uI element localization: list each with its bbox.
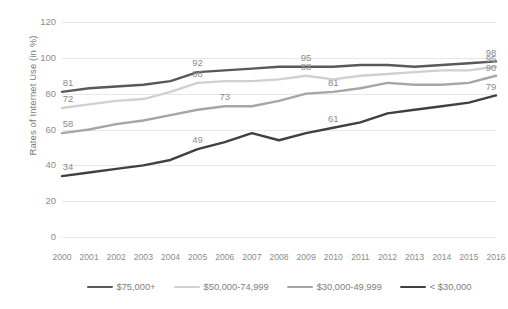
x-axis-tick-label: 2006 <box>215 253 234 262</box>
x-axis-tick-label: 2004 <box>161 253 180 262</box>
x-axis-tick-label: 2010 <box>324 253 343 262</box>
data-point-label: 61 <box>328 114 339 124</box>
x-axis-tick-label: 2003 <box>134 253 153 262</box>
y-axis-tick-label: 20 <box>16 196 56 206</box>
data-point-label: 73 <box>219 92 230 102</box>
legend-swatch-icon <box>87 286 113 289</box>
y-axis-tick-label: 120 <box>16 17 56 27</box>
data-point-label: 34 <box>63 162 74 172</box>
y-axis-tick-label: 80 <box>16 89 56 99</box>
series-line <box>62 76 496 133</box>
x-axis-tick-label: 2002 <box>107 253 126 262</box>
x-axis-tick-label: 2014 <box>432 253 451 262</box>
x-axis-tick-labels: 2000200120022003200420052006200720082009… <box>62 253 496 267</box>
legend-swatch-icon <box>287 286 313 289</box>
y-axis-tick-label: 40 <box>16 160 56 170</box>
legend-item[interactable]: $30,000-49,999 <box>287 282 382 292</box>
plot-area: 81929598728688955873819034496179 <box>62 22 496 237</box>
data-point-label: 49 <box>192 135 203 145</box>
x-axis-tick-label: 2008 <box>269 253 288 262</box>
data-point-label: 86 <box>192 69 203 79</box>
y-axis-tick-label: 0 <box>16 232 56 242</box>
x-axis-tick-label: 2015 <box>459 253 478 262</box>
legend-swatch-icon <box>174 286 200 289</box>
legend-label: $50,000-74,999 <box>204 282 269 292</box>
data-point-label: 81 <box>328 78 339 88</box>
legend-item[interactable]: < $30,000 <box>400 282 472 292</box>
chart-legend: $75,000+$50,000-74,999$30,000-49,999< $3… <box>62 278 496 296</box>
y-axis-tick-label: 100 <box>16 53 56 63</box>
x-axis-tick-label: 2009 <box>297 253 316 262</box>
legend-item[interactable]: $50,000-74,999 <box>174 282 269 292</box>
data-point-label: 79 <box>486 83 497 93</box>
x-axis-tick-label: 2011 <box>351 253 369 262</box>
legend-item[interactable]: $75,000+ <box>87 282 156 292</box>
y-axis-tick-label: 60 <box>16 125 56 135</box>
data-point-label: 58 <box>63 119 74 129</box>
data-point-label: 81 <box>63 78 74 88</box>
legend-swatch-icon <box>400 286 426 289</box>
x-axis-tick-label: 2016 <box>486 253 505 262</box>
y-axis-tick-labels: 020406080100120 <box>12 22 56 237</box>
gridline <box>62 237 496 238</box>
data-point-label: 90 <box>486 63 497 73</box>
x-axis-tick-label: 2000 <box>52 253 71 262</box>
x-axis-tick-label: 2007 <box>242 253 261 262</box>
legend-label: < $30,000 <box>430 282 472 292</box>
data-point-label: 72 <box>63 94 74 104</box>
x-axis-tick-label: 2001 <box>80 253 99 262</box>
x-axis-tick-label: 2005 <box>188 253 207 262</box>
x-axis-tick-label: 2013 <box>405 253 424 262</box>
data-point-label: 88 <box>301 62 312 72</box>
line-chart: Rates of Internet Use (in %) 02040608010… <box>0 0 508 309</box>
series-lines <box>62 22 496 237</box>
data-point-label: 92 <box>192 58 203 68</box>
x-axis-tick-label: 2012 <box>378 253 397 262</box>
legend-label: $75,000+ <box>117 282 156 292</box>
series-line <box>62 61 496 91</box>
legend-label: $30,000-49,999 <box>317 282 382 292</box>
series-line <box>62 95 496 176</box>
